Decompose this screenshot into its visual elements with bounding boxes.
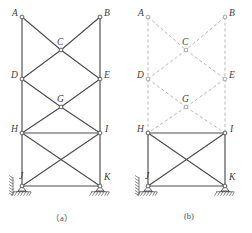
label-C-panel-a: C bbox=[57, 38, 63, 48]
member-B-C-dashed bbox=[186, 17, 225, 50]
member-G-I-dashed bbox=[186, 107, 225, 133]
label-B-panel-b: B bbox=[229, 9, 235, 19]
label-J-panel-b: J bbox=[145, 172, 149, 182]
member-C-D bbox=[22, 50, 61, 79]
node-H-b bbox=[146, 131, 150, 135]
node-H bbox=[20, 131, 24, 135]
label-K-panel-a: K bbox=[104, 173, 110, 183]
member-E-G bbox=[61, 79, 100, 107]
node-G-b bbox=[184, 105, 188, 109]
member-G-I bbox=[61, 107, 100, 133]
node-K bbox=[98, 184, 102, 188]
label-A-panel-b: A bbox=[138, 9, 144, 19]
node-E bbox=[98, 77, 102, 81]
member-D-G-dashed bbox=[148, 79, 186, 107]
label-H-panel-a: H bbox=[11, 125, 18, 135]
label-E-panel-a: E bbox=[104, 71, 110, 81]
node-K-b bbox=[223, 184, 227, 188]
label-J-panel-a: J bbox=[19, 172, 23, 182]
member-C-E bbox=[61, 50, 100, 79]
node-A bbox=[20, 15, 24, 19]
member-G-H-dashed bbox=[148, 107, 186, 133]
caption-panel-a: （a） bbox=[48, 211, 76, 223]
node-G bbox=[59, 105, 63, 109]
node-D bbox=[20, 77, 24, 81]
node-E-b bbox=[223, 77, 227, 81]
truss-figure bbox=[0, 0, 252, 233]
label-B-panel-a: B bbox=[104, 9, 110, 19]
node-A-b bbox=[146, 15, 150, 19]
label-G-panel-a: G bbox=[57, 95, 64, 105]
panel-b-members-dashed bbox=[148, 17, 225, 133]
label-H-panel-b: H bbox=[137, 125, 144, 135]
label-D-panel-b: D bbox=[137, 71, 144, 81]
member-C-D-dashed bbox=[148, 50, 186, 79]
caption-panel-b: (b) bbox=[175, 211, 203, 221]
node-C-b bbox=[184, 48, 188, 52]
label-E-panel-b: E bbox=[229, 71, 235, 81]
member-G-H bbox=[22, 107, 61, 133]
label-C-panel-b: C bbox=[182, 38, 188, 48]
member-C-E-dashed bbox=[186, 50, 225, 79]
label-A-panel-a: A bbox=[12, 9, 18, 19]
node-J-b bbox=[146, 184, 150, 188]
label-D-panel-a: D bbox=[11, 71, 18, 81]
member-B-C bbox=[61, 17, 100, 50]
label-G-panel-b: G bbox=[182, 95, 189, 105]
node-B bbox=[98, 15, 102, 19]
member-A-C-dashed bbox=[148, 17, 186, 50]
node-B-b bbox=[223, 15, 227, 19]
node-I-b bbox=[223, 131, 227, 135]
member-A-C bbox=[22, 17, 61, 50]
panel-b-members-solid bbox=[148, 133, 225, 186]
node-D-b bbox=[146, 77, 150, 81]
label-I-panel-a: I bbox=[105, 125, 108, 135]
member-E-G-dashed bbox=[186, 79, 225, 107]
node-J bbox=[20, 184, 24, 188]
node-C bbox=[59, 48, 63, 52]
label-I-panel-b: I bbox=[230, 125, 233, 135]
label-K-panel-b: K bbox=[229, 173, 235, 183]
node-I bbox=[98, 131, 102, 135]
member-D-G bbox=[22, 79, 61, 107]
